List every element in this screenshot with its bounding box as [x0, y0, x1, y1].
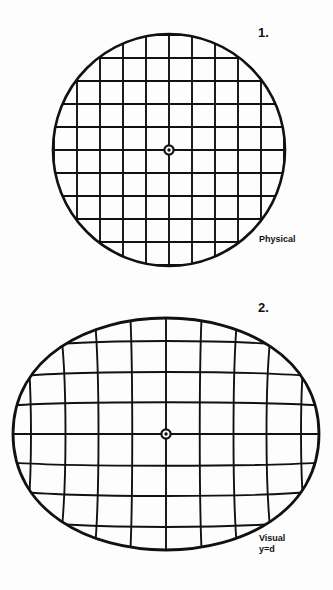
- figure-visual: 2. Visual y=d: [0, 295, 333, 590]
- figure-caption-physical: Physical: [259, 234, 296, 245]
- fixation-dot-physical: [164, 145, 173, 154]
- figure-physical: 1. Physical: [0, 0, 333, 295]
- diagram-page: 1. Physical: [0, 0, 333, 590]
- fixation-dot-visual: [161, 429, 170, 438]
- figure-number-2: 2.: [258, 301, 269, 314]
- physical-grid-svg: [0, 0, 333, 295]
- figure-number-1: 1.: [258, 26, 269, 39]
- figure-caption-visual: Visual y=d: [259, 533, 285, 555]
